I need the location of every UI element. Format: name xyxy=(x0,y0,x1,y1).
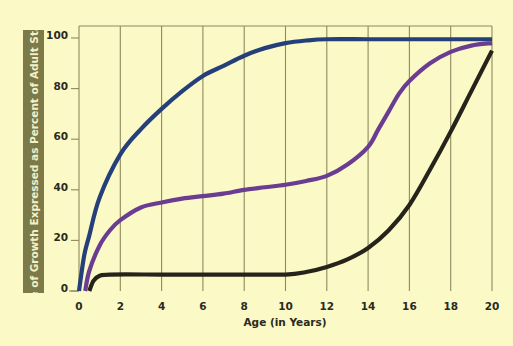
x-tick-label: 2 xyxy=(117,300,124,312)
x-tick-label: 18 xyxy=(443,300,458,312)
x-tick-label: 6 xyxy=(199,300,206,312)
plot-area: 020406080100 02468101214161820 Age (in Y… xyxy=(0,0,513,346)
growth-chart: Rate of Growth Expressed as Percent of A… xyxy=(0,0,513,346)
y-tick-label: 60 xyxy=(53,130,68,142)
x-tick-label: 20 xyxy=(485,300,500,312)
x-tick-label: 10 xyxy=(278,300,293,312)
y-tick-label: 80 xyxy=(53,80,68,92)
y-tick-label: 20 xyxy=(53,231,68,243)
black-curve-line xyxy=(89,51,492,291)
x-tick-label: 14 xyxy=(361,300,376,312)
x-axis-label: Age (in Years) xyxy=(243,316,326,328)
x-axis-ticks: 02468101214161820 xyxy=(75,300,499,312)
y-tick-label: 100 xyxy=(46,29,68,41)
x-tick-label: 12 xyxy=(319,300,334,312)
y-tick-label: 0 xyxy=(61,282,68,294)
y-axis-ticks: 020406080100 xyxy=(46,29,79,294)
x-tick-label: 4 xyxy=(158,300,165,312)
y-tick-label: 40 xyxy=(53,181,68,193)
x-tick-label: 16 xyxy=(402,300,417,312)
x-tick-label: 0 xyxy=(75,300,82,312)
x-tick-label: 8 xyxy=(241,300,248,312)
